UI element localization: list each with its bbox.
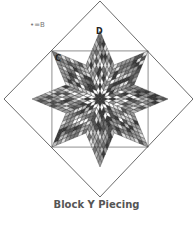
label-c-setting-square: C (55, 55, 61, 63)
legend-bullet-equals-b: •=B (30, 22, 45, 29)
eight-point-star (32, 31, 168, 167)
figure-caption: Block Y Piecing (0, 199, 193, 210)
label-d-setting-triangle: D (96, 28, 103, 36)
